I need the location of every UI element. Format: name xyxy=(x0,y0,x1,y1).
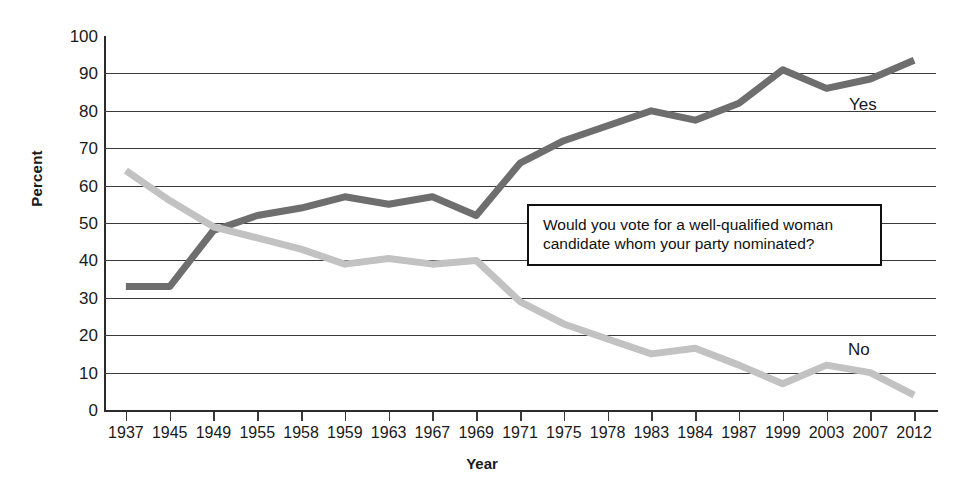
x-tick xyxy=(608,412,610,421)
x-tick xyxy=(827,412,829,421)
y-axis-tick-labels: 0102030405060708090100 xyxy=(52,0,98,495)
x-tick xyxy=(564,412,566,421)
x-tick-label: 1958 xyxy=(279,424,323,442)
x-tick xyxy=(739,412,741,421)
series-label-yes: Yes xyxy=(849,95,877,115)
x-tick-label: 1963 xyxy=(367,424,411,442)
x-tick xyxy=(126,412,128,421)
y-axis-title: Percent xyxy=(28,119,45,239)
x-tick-label: 1955 xyxy=(235,424,279,442)
x-tick xyxy=(695,412,697,421)
series-label-no: No xyxy=(848,340,870,360)
x-tick-label: 1999 xyxy=(761,424,805,442)
x-tick-label: 1987 xyxy=(717,424,761,442)
x-tick-label: 1983 xyxy=(629,424,673,442)
x-tick-label: 1975 xyxy=(542,424,586,442)
question-line-2: candidate whom your party nominated? xyxy=(543,234,868,253)
chart-container: Percent 0102030405060708090100 193719451… xyxy=(0,0,964,495)
x-tick xyxy=(301,412,303,421)
x-tick xyxy=(651,412,653,421)
y-tick-label: 0 xyxy=(52,402,98,419)
y-tick-label: 100 xyxy=(52,28,98,45)
y-tick-label: 40 xyxy=(52,252,98,269)
x-tick-label: 2003 xyxy=(805,424,849,442)
question-callout: Would you vote for a well-qualified woma… xyxy=(527,204,882,266)
x-tick xyxy=(914,412,916,421)
question-line-1: Would you vote for a well-qualified woma… xyxy=(543,215,868,234)
y-tick-label: 20 xyxy=(52,327,98,344)
x-tick-label: 1971 xyxy=(498,424,542,442)
x-tick xyxy=(476,412,478,421)
x-tick-label: 1978 xyxy=(586,424,630,442)
x-tick xyxy=(170,412,172,421)
x-tick xyxy=(213,412,215,421)
x-tick xyxy=(783,412,785,421)
x-tick-label: 1984 xyxy=(673,424,717,442)
x-tick xyxy=(345,412,347,421)
y-tick-label: 50 xyxy=(52,215,98,232)
x-axis-title: Year xyxy=(0,455,964,472)
x-tick xyxy=(257,412,259,421)
x-tick xyxy=(870,412,872,421)
x-tick-label: 1959 xyxy=(323,424,367,442)
x-tick-label: 2007 xyxy=(848,424,892,442)
y-tick-label: 30 xyxy=(52,290,98,307)
y-tick-label: 60 xyxy=(52,178,98,195)
y-tick-label: 70 xyxy=(52,140,98,157)
y-tick-label: 90 xyxy=(52,65,98,82)
y-tick-label: 10 xyxy=(52,365,98,382)
x-tick xyxy=(432,412,434,421)
x-tick xyxy=(520,412,522,421)
x-tick-label: 2012 xyxy=(892,424,936,442)
x-tick-label: 1945 xyxy=(148,424,192,442)
x-tick xyxy=(389,412,391,421)
x-tick-label: 1969 xyxy=(454,424,498,442)
y-tick-label: 80 xyxy=(52,103,98,120)
x-tick-label: 1949 xyxy=(191,424,235,442)
x-tick-label: 1967 xyxy=(410,424,454,442)
x-tick-label: 1937 xyxy=(104,424,148,442)
